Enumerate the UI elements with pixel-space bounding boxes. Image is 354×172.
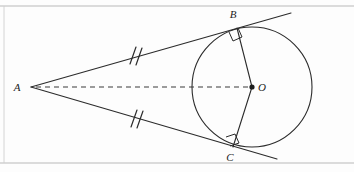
label-point-B: B [230,8,237,20]
label-point-C: C [226,151,234,163]
label-point-O: O [258,81,266,93]
tangent-line-through-B [31,13,291,87]
radius-segment-OB [237,28,252,87]
center-point-O-dot [249,84,254,89]
geometry-diagram-canvas: A B C O [0,0,354,172]
label-point-A: A [13,81,21,93]
radius-segment-OC [233,87,252,147]
geometry-figure: A B C O [0,0,354,172]
